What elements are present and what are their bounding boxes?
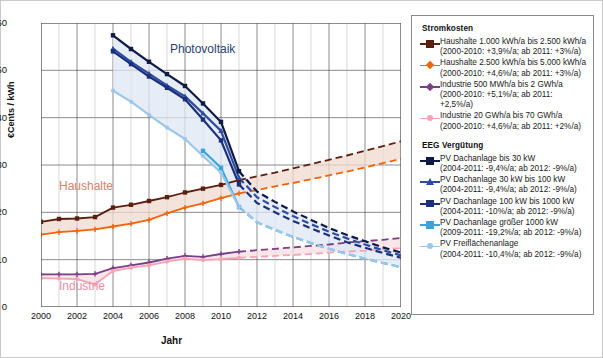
y-tick-50: 50 [0, 64, 7, 75]
annotation-photovoltaik: Photovoltaik [170, 42, 235, 56]
legend-label: PV Freiflächenanlage [440, 239, 518, 248]
annotation-haushalte: Haushalte [59, 179, 113, 193]
data-point [201, 258, 205, 262]
legend-marker-icon [420, 39, 440, 49]
data-point [201, 154, 205, 158]
legend-label: Haushalte 2.500 kWh/a bis 5.000 kWh/a [440, 58, 586, 67]
data-point [129, 99, 133, 103]
chart-legend: Stromkosten Haushalte 1.000 kWh/a bis 2.… [411, 15, 594, 315]
data-point [165, 72, 169, 76]
legend-group-eeg: PV Dachanlage bis 30 kW(2004-2011: -9,4%… [420, 154, 587, 260]
legend-label: PV Dachanlage bis 30 kW [440, 154, 535, 163]
x-tick-2010: 2010 [204, 311, 238, 321]
data-point [219, 183, 223, 187]
data-point [183, 190, 187, 194]
legend-marker-icon [420, 177, 440, 187]
y-tick-20: 20 [0, 206, 7, 217]
legend-sublabel: (2000-2010: +4,6%/a; ab 2011: +3%/a) [440, 69, 586, 79]
annotation-industrie: Industrie [59, 279, 105, 293]
data-point [111, 269, 115, 273]
legend-text: Industrie 20 GWh/a bis 70 GWh/a(2000-201… [440, 111, 581, 131]
x-tick-2002: 2002 [60, 311, 94, 321]
legend-text: Haushalte 1.000 kWh/a bis 2.500 kWh/a(20… [440, 37, 586, 57]
data-point [165, 86, 169, 90]
data-point [147, 263, 151, 267]
y-tick-0: 0 [0, 301, 7, 312]
legend-item-stromkosten-2[interactable]: Industrie 500 MWh/a bis 2 GWh/a(2000-201… [420, 80, 587, 111]
legend-heading-eeg: EEG Vergütung [422, 141, 587, 150]
legend-label: Industrie 500 MWh/a bis 2 GWh/a [440, 80, 563, 89]
data-point [219, 170, 223, 174]
data-point [129, 47, 133, 51]
legend-item-eeg-4[interactable]: PV Freiflächenanlage(2004-2011: -10,4%/a… [420, 239, 587, 259]
legend-text: PV Dachanlage 100 kW bis 1000 kW(2004-20… [440, 197, 575, 217]
legend-item-stromkosten-0[interactable]: Haushalte 1.000 kWh/a bis 2.500 kWh/a(20… [420, 37, 587, 57]
legend-sublabel: (2004-2011: -10,4%/a; ab 2012: -9%/a) [440, 250, 581, 260]
legend-marker-icon [420, 220, 440, 230]
y-tick-10: 10 [0, 254, 7, 265]
legend-sublabel: (2004-2011: -9,4%/a; ab 2012: -9%/a) [440, 185, 577, 195]
x-tick-2014: 2014 [276, 311, 310, 321]
legend-marker-icon [420, 156, 440, 166]
legend-group-stromkosten: Haushalte 1.000 kWh/a bis 2.500 kWh/a(20… [420, 37, 587, 132]
legend-sublabel: (2009-2011: -19,2%/a; ab 2012: -9%/a) [440, 228, 581, 238]
legend-marker-icon [420, 241, 440, 251]
legend-item-stromkosten-3[interactable]: Industrie 20 GWh/a bis 70 GWh/a(2000-201… [420, 111, 587, 131]
legend-text: PV Dachanlage bis 30 kW(2004-2011: -9,4%… [440, 154, 577, 174]
legend-label: PV Dachanlage 100 kW bis 1000 kW [440, 197, 574, 206]
legend-label: PV Dachanlage größer 1000 kW [440, 218, 558, 227]
legend-marker-icon [420, 60, 440, 70]
data-point [183, 137, 187, 141]
legend-text: PV Dachanlage 30 kW bis 100 kW(2004-2011… [440, 175, 577, 195]
data-point [147, 74, 151, 78]
data-point [183, 257, 187, 261]
legend-marker-icon [420, 82, 440, 92]
data-point [111, 49, 115, 53]
legend-marker-icon [420, 199, 440, 209]
chart-area: €Cents / kWh Jahr 0102030405060 20002002… [1, 1, 411, 358]
legend-item-stromkosten-1[interactable]: Haushalte 2.500 kWh/a bis 5.000 kWh/a(20… [420, 58, 587, 78]
data-point [237, 256, 241, 260]
data-point [219, 257, 223, 261]
data-point [201, 101, 205, 105]
data-point [201, 149, 205, 153]
data-point [165, 195, 169, 199]
legend-label: PV Dachanlage 30 kW bis 100 kW [440, 175, 565, 184]
legend-item-eeg-3[interactable]: PV Dachanlage größer 1000 kW(2009-2011: … [420, 218, 587, 238]
legend-label: Industrie 20 GWh/a bis 70 GWh/a [440, 111, 562, 120]
legend-item-eeg-2[interactable]: PV Dachanlage 100 kW bis 1000 kW(2004-20… [420, 197, 587, 217]
y-axis-label: €Cents / kWh [6, 124, 16, 138]
x-tick-2016: 2016 [312, 311, 346, 321]
x-tick-2018: 2018 [348, 311, 382, 321]
legend-marker-icon [420, 113, 440, 123]
x-tick-2006: 2006 [132, 311, 166, 321]
data-point [111, 205, 115, 209]
plot-canvas [41, 23, 401, 307]
legend-item-eeg-0[interactable]: PV Dachanlage bis 30 kW(2004-2011: -9,4%… [420, 154, 587, 174]
data-point [111, 33, 115, 37]
data-point [183, 97, 187, 101]
legend-text: Industrie 500 MWh/a bis 2 GWh/a(2000-201… [440, 80, 587, 111]
data-point [129, 62, 133, 66]
data-point [165, 259, 169, 263]
legend-text: Haushalte 2.500 kWh/a bis 5.000 kWh/a(20… [440, 58, 586, 78]
y-tick-60: 60 [0, 17, 7, 28]
data-point [147, 199, 151, 203]
legend-sublabel: (2004-2011: -10%/a; ab 2012: -9%/a) [440, 207, 575, 217]
data-point [129, 203, 133, 207]
legend-heading-stromkosten: Stromkosten [422, 24, 587, 33]
data-point [183, 84, 187, 88]
legend-item-eeg-1[interactable]: PV Dachanlage 30 kW bis 100 kW(2004-2011… [420, 175, 587, 195]
data-point [237, 205, 241, 209]
legend-sublabel: (2000-2010: +3,9%/a; ab 2011: +3%/a) [440, 47, 586, 57]
data-point [201, 186, 205, 190]
legend-text: PV Freiflächenanlage(2004-2011: -10,4%/a… [440, 239, 581, 259]
chart-frame: €Cents / kWh Jahr 0102030405060 20002002… [0, 0, 603, 358]
legend-sublabel: (2000-2010: +5,1%/a; ab 2011: +2,5%/a) [440, 90, 587, 110]
data-point [147, 113, 151, 117]
data-point [129, 266, 133, 270]
legend-sublabel: (2000-2010: +4,6%/a; ab 2011: +2%/a) [440, 122, 581, 132]
data-point [237, 169, 241, 173]
data-point [219, 120, 223, 124]
data-point [219, 166, 223, 170]
